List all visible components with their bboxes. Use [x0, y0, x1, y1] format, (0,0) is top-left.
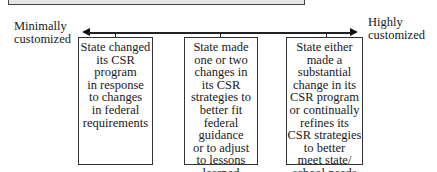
- box-line: changes in: [185, 66, 257, 79]
- label-line: customized: [368, 29, 425, 42]
- box-line: State either: [287, 41, 362, 54]
- arrowhead-right-icon: [350, 28, 358, 36]
- continuum-axis: [88, 32, 350, 34]
- box-line: or continually: [287, 104, 362, 117]
- highly-customized-label: Highly customized: [368, 16, 425, 42]
- box-line: better fit: [185, 104, 257, 117]
- box-line: learned: [185, 167, 257, 172]
- header-box-fragment: [8, 0, 305, 5]
- box-line: State changed: [79, 41, 152, 54]
- box-line: requirements: [79, 117, 152, 130]
- box-line: substantial: [287, 66, 362, 79]
- box-line: school needs: [287, 167, 362, 172]
- box-line: CSR strategies: [287, 129, 362, 142]
- box-substantial-change: State either made a substantial change i…: [286, 37, 363, 165]
- box-moderate-change: State made one or two changes in its CSR…: [184, 37, 258, 165]
- label-line: customized: [14, 33, 71, 46]
- box-line: guidance: [185, 129, 257, 142]
- box-line: in federal: [79, 104, 152, 117]
- minimally-customized-label: Minimally customized: [14, 20, 71, 46]
- box-line: State made: [185, 41, 257, 54]
- box-line: program: [79, 66, 152, 79]
- box-minimal-change: State changed its CSR program in respons…: [78, 37, 153, 165]
